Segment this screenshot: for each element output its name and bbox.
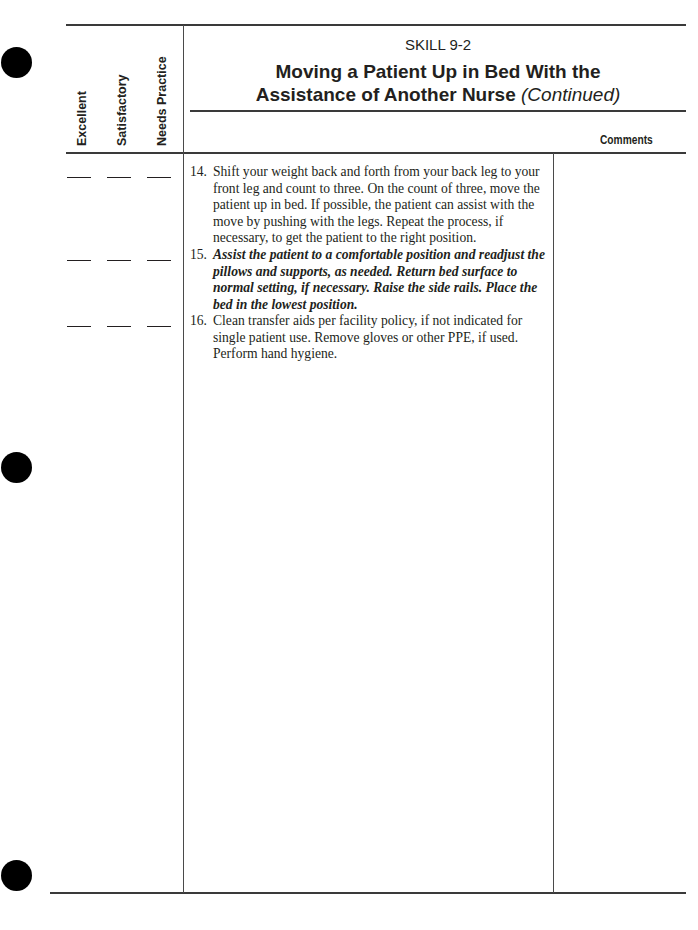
punch-hole-bottom — [1, 860, 32, 891]
rating-blank-needs-practice[interactable] — [147, 177, 171, 178]
step-14: 14. Shift your weight back and forth fro… — [190, 164, 550, 247]
page-title: Moving a Patient Up in Bed With the Assi… — [190, 60, 686, 106]
step-text: Shift your weight back and forth from yo… — [190, 164, 550, 247]
rating-header-excellent: Excellent — [75, 91, 89, 146]
rating-blank-satisfactory[interactable] — [107, 326, 131, 327]
rating-blank-excellent[interactable] — [67, 177, 91, 178]
punch-hole-top — [1, 47, 32, 78]
rating-column-divider — [183, 25, 184, 893]
step-number: 16. — [190, 313, 207, 330]
skill-number: SKILL 9-2 — [190, 36, 686, 53]
rating-blank-excellent[interactable] — [67, 260, 91, 261]
rating-blank-needs-practice[interactable] — [147, 260, 171, 261]
rating-blank-needs-practice[interactable] — [147, 326, 171, 327]
step-number: 14. — [190, 164, 207, 181]
comments-header: Comments — [600, 133, 653, 147]
step-15: 15. Assist the patient to a comfortable … — [190, 247, 550, 313]
rating-header-satisfactory: Satisfactory — [115, 74, 129, 146]
rating-header-needs-practice: Needs Practice — [155, 56, 169, 146]
title-underline — [190, 110, 686, 112]
title-line-2: Assistance of Another Nurse (Continued) — [190, 83, 686, 106]
title-continued: (Continued) — [521, 84, 620, 105]
punch-hole-middle — [1, 452, 32, 483]
step-text: Assist the patient to a comfortable posi… — [190, 247, 550, 313]
top-rule — [66, 24, 686, 26]
step-16: 16. Clean transfer aids per facility pol… — [190, 313, 550, 363]
comments-area[interactable] — [554, 154, 686, 892]
rating-blank-satisfactory[interactable] — [107, 260, 131, 261]
rating-blank-satisfactory[interactable] — [107, 177, 131, 178]
step-text: Clean transfer aids per facility policy,… — [190, 313, 550, 363]
title-line-2-text: Assistance of Another Nurse — [256, 84, 516, 105]
step-number: 15. — [190, 247, 207, 264]
title-line-1: Moving a Patient Up in Bed With the — [190, 60, 686, 83]
bottom-rule — [50, 892, 686, 894]
rating-blank-excellent[interactable] — [67, 326, 91, 327]
